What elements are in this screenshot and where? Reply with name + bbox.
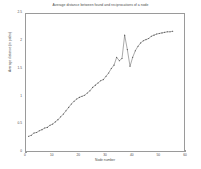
data-point <box>121 58 122 59</box>
data-point <box>89 90 90 91</box>
data-point <box>161 32 162 33</box>
data-point <box>159 33 160 34</box>
data-series-plot <box>26 14 186 153</box>
y-tick-label: 1 <box>2 95 22 98</box>
data-point <box>36 132 37 133</box>
data-point <box>140 42 141 43</box>
y-axis-label: Average distance (in paths) <box>8 12 12 92</box>
y-tick-label: 2.5 <box>2 11 22 14</box>
data-point <box>79 97 80 98</box>
x-axis-label: Node number <box>25 158 185 162</box>
data-point <box>143 40 144 41</box>
data-point <box>55 121 56 122</box>
x-tick-label: 50 <box>151 154 165 157</box>
y-tick-label: 0.5 <box>2 122 22 125</box>
chart-title: Average distance between found and recip… <box>0 3 201 8</box>
x-tick-label: 60 <box>178 154 192 157</box>
series-markers <box>28 31 173 137</box>
data-point <box>76 99 77 100</box>
data-point <box>172 31 173 32</box>
data-point <box>28 136 29 137</box>
data-point <box>103 79 104 80</box>
data-point <box>87 92 88 93</box>
data-point <box>167 31 168 32</box>
data-point <box>119 60 120 61</box>
data-point <box>156 33 157 34</box>
data-point <box>129 66 130 67</box>
data-point <box>33 132 34 133</box>
data-point <box>81 96 82 97</box>
data-point <box>113 65 114 66</box>
y-tick-label: 1.5 <box>2 67 22 70</box>
data-point <box>151 36 152 37</box>
data-point <box>108 72 109 73</box>
data-point <box>68 107 69 108</box>
data-point <box>63 114 64 115</box>
plot-area <box>25 13 185 152</box>
data-point <box>97 82 98 83</box>
y-tick-label: 2 <box>2 39 22 42</box>
data-point <box>164 32 165 33</box>
data-point <box>60 116 61 117</box>
data-point <box>153 35 154 36</box>
data-point <box>105 76 106 77</box>
data-point <box>39 130 40 131</box>
data-point <box>169 31 170 32</box>
x-tick-label: 10 <box>45 154 59 157</box>
x-tick-label: 20 <box>71 154 85 157</box>
x-tick-label: 30 <box>98 154 112 157</box>
data-point <box>124 35 125 36</box>
data-point <box>95 85 96 86</box>
data-point <box>148 38 149 39</box>
data-point <box>92 87 93 88</box>
data-point <box>116 57 117 58</box>
data-point <box>135 50 136 51</box>
data-point <box>31 135 32 136</box>
series-line <box>29 31 173 136</box>
data-point <box>44 127 45 128</box>
data-point <box>71 104 72 105</box>
x-tick-label: 0 <box>18 154 32 157</box>
data-point <box>100 80 101 81</box>
data-point <box>137 46 138 47</box>
data-point <box>111 68 112 69</box>
data-point <box>41 129 42 130</box>
data-point <box>47 127 48 128</box>
data-point <box>49 125 50 126</box>
data-point <box>127 49 128 50</box>
data-point <box>52 124 53 125</box>
data-point <box>84 95 85 96</box>
data-point <box>65 110 66 111</box>
chart-figure: Average distance between found and recip… <box>0 0 201 169</box>
data-point <box>73 101 74 102</box>
x-tick-label: 40 <box>125 154 139 157</box>
data-point <box>57 119 58 120</box>
data-point <box>145 39 146 40</box>
data-point <box>132 57 133 58</box>
